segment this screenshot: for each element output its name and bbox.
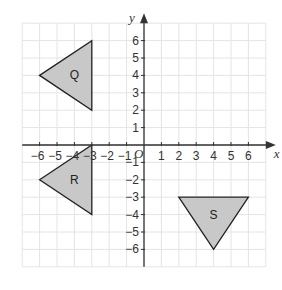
axes — [22, 13, 276, 267]
x-tick-label: −2 — [100, 149, 114, 163]
y-tick-label: −3 — [125, 190, 139, 204]
y-tick-label: 1 — [132, 121, 139, 135]
y-axis-arrow-icon — [140, 13, 148, 23]
x-tick-label: 6 — [245, 149, 252, 163]
triangle-label-r: R — [70, 173, 79, 187]
x-tick-label: 5 — [228, 149, 235, 163]
y-tick-label: −5 — [125, 225, 139, 239]
triangle-label-s: S — [210, 208, 218, 222]
x-tick-label: −3 — [83, 149, 97, 163]
y-tick-label: 5 — [132, 51, 139, 65]
triangle-s — [179, 197, 249, 249]
tick-labels: −6−5−4−3−2−1123456654321−1−2−3−4−5−6xyO — [31, 10, 280, 256]
x-tick-label: −6 — [31, 149, 45, 163]
x-tick-label: 4 — [210, 149, 217, 163]
y-tick-label: 4 — [132, 68, 139, 82]
y-axis-label: y — [127, 10, 135, 25]
y-tick-label: 3 — [132, 86, 139, 100]
origin-label: O — [134, 146, 144, 161]
coordinate-grid-diagram: QRS −6−5−4−3−2−1123456654321−1−2−3−4−5−6… — [0, 0, 282, 290]
x-tick-label: −5 — [48, 149, 62, 163]
x-tick-label: 3 — [193, 149, 200, 163]
y-tick-label: −4 — [125, 208, 139, 222]
x-tick-label: −4 — [66, 149, 80, 163]
triangle-q — [40, 41, 92, 111]
x-tick-label: 2 — [175, 149, 182, 163]
x-axis-label: x — [273, 146, 280, 161]
y-tick-label: 6 — [132, 34, 139, 48]
y-tick-label: 2 — [132, 103, 139, 117]
x-tick-label: 1 — [158, 149, 165, 163]
triangle-label-q: Q — [70, 68, 79, 82]
y-tick-label: −2 — [125, 173, 139, 187]
y-tick-label: −6 — [125, 242, 139, 256]
